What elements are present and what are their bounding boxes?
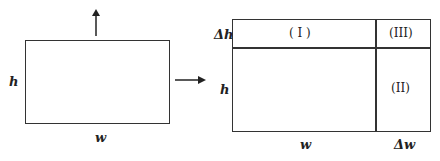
right-height-label: h xyxy=(220,83,229,96)
original-rectangle xyxy=(25,40,170,124)
right-width-label: w xyxy=(300,138,311,151)
left-width-label: w xyxy=(95,131,106,144)
right-arrow-icon xyxy=(175,76,206,84)
delta-w-label: Δw xyxy=(394,138,415,151)
delta-h-label: Δh xyxy=(214,28,234,41)
up-arrow-icon xyxy=(92,9,100,36)
region-1-label: ( I ) xyxy=(289,27,311,39)
region-3-label: (III) xyxy=(389,27,413,39)
vertical-divider xyxy=(375,19,377,132)
left-height-label: h xyxy=(9,75,18,88)
region-2-label: (II) xyxy=(391,82,410,94)
horizontal-divider xyxy=(232,47,431,49)
